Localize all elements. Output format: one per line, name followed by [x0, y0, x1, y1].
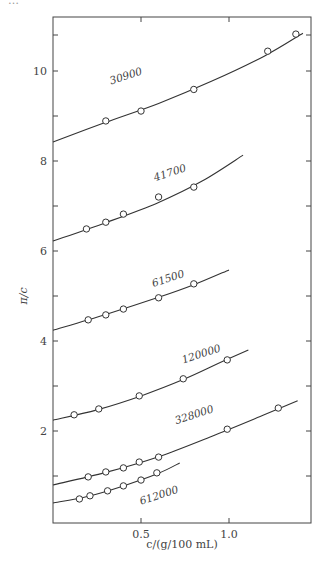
data-point-328000	[85, 474, 91, 480]
y-tick-label: 10	[33, 65, 47, 78]
data-point-120000	[136, 393, 142, 399]
data-point-30900	[265, 48, 271, 54]
data-point-328000	[275, 405, 281, 411]
series-label-41700: 41700	[151, 161, 188, 183]
x-tick-label: 1.0	[220, 528, 238, 541]
fit-curve-41700	[53, 155, 243, 241]
data-points	[71, 31, 299, 502]
data-point-41700	[191, 184, 197, 190]
series-label-61500: 61500	[150, 267, 186, 289]
series-label-328000: 328000	[173, 402, 215, 426]
data-point-30900	[293, 31, 299, 37]
osmotic-pressure-chart: 2468100.51.0 309004170061500120000328000…	[0, 0, 329, 572]
data-point-41700	[103, 219, 109, 225]
data-point-61500	[85, 317, 91, 323]
series-labels: 309004170061500120000328000612000	[108, 65, 222, 507]
series-label-30900: 30900	[108, 65, 144, 87]
data-point-612000	[87, 493, 93, 499]
series-label-120000: 120000	[180, 342, 222, 366]
data-point-41700	[155, 194, 161, 200]
data-point-328000	[120, 465, 126, 471]
data-point-61500	[120, 306, 126, 312]
data-point-120000	[96, 406, 102, 412]
data-point-120000	[180, 376, 186, 382]
data-point-120000	[224, 357, 230, 363]
data-point-61500	[155, 295, 161, 301]
data-point-30900	[138, 108, 144, 114]
y-tick-label: 6	[40, 245, 47, 258]
data-point-612000	[76, 496, 82, 502]
data-point-61500	[103, 312, 109, 318]
y-tick-label: 4	[40, 335, 47, 348]
fit-curve-120000	[53, 350, 248, 420]
fit-curve-61500	[53, 270, 229, 330]
data-point-612000	[138, 477, 144, 483]
data-point-41700	[83, 226, 89, 232]
data-point-328000	[224, 426, 230, 432]
x-axis-title: c/(g/100 mL)	[146, 538, 217, 551]
data-point-30900	[191, 86, 197, 92]
y-tick-label: 2	[40, 425, 47, 438]
data-point-120000	[71, 412, 77, 418]
data-point-612000	[104, 488, 110, 494]
y-axis-title: π/c	[17, 287, 30, 305]
data-point-328000	[103, 469, 109, 475]
data-point-30900	[103, 118, 109, 124]
data-point-41700	[120, 211, 126, 217]
data-point-612000	[120, 483, 126, 489]
data-point-612000	[154, 470, 160, 476]
data-point-328000	[136, 459, 142, 465]
data-point-328000	[155, 454, 161, 460]
data-point-61500	[191, 281, 197, 287]
series-label-612000: 612000	[138, 483, 180, 507]
y-tick-label: 8	[40, 155, 47, 168]
